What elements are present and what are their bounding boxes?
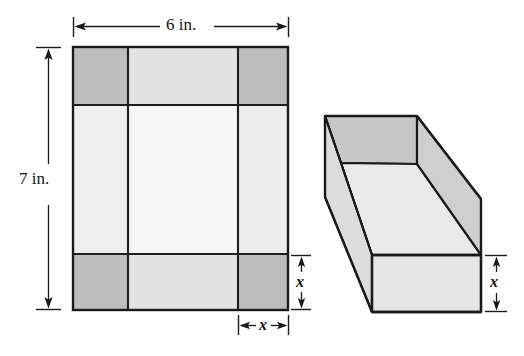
label-width-6in: 6 in. [166,16,196,33]
label-x-depth: x [296,274,304,290]
sheet-center-panel [128,105,238,254]
corner-square-top-left [73,47,128,105]
sheet-strip-left [73,105,128,254]
label-height-7in: 7 in. [19,170,49,187]
sheet-strip-bottom [128,254,238,310]
corner-square-bottom-right [238,254,288,310]
label-x-box-height: x [490,274,498,290]
open-box-group [325,116,481,312]
flat-sheet-group [73,47,288,310]
geometry-illustration [0,0,524,356]
sheet-strip-right [238,105,288,254]
corner-square-top-right [238,47,288,105]
sheet-strip-top [128,47,238,105]
label-x-width: x [259,317,267,333]
diagram-canvas: 6 in. 7 in. x x x [0,0,524,356]
corner-square-bottom-left [73,254,128,310]
box-front-outer-wall [372,255,481,312]
